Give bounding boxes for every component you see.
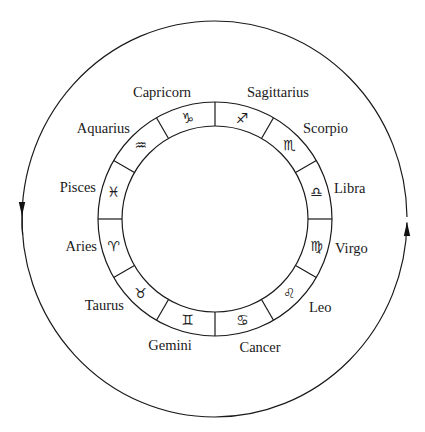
aries-glyph-icon: ♈︎	[107, 238, 120, 254]
sign-label-leo: Leo	[309, 299, 332, 315]
ring-divider	[296, 266, 317, 278]
arrow-up-icon	[404, 222, 410, 236]
leo-glyph-icon: ♌︎	[283, 285, 296, 301]
sign-label-gemini: Gemini	[148, 337, 192, 353]
ring-divider	[262, 118, 274, 139]
ring-outer-circle	[98, 102, 332, 336]
taurus-glyph-icon: ♉︎	[134, 285, 147, 301]
aquarius-glyph-icon: ♒︎	[134, 137, 147, 153]
sign-label-capricorn: Capricorn	[133, 84, 192, 100]
zodiac-ring: ♐︎♏︎♎︎♍︎♌︎♋︎♊︎♉︎♈︎♓︎♒︎♑︎	[98, 102, 332, 336]
arrow-down-icon	[19, 202, 25, 216]
ring-divider	[157, 118, 169, 139]
ring-dividers	[98, 102, 332, 336]
gemini-glyph-icon: ♊︎	[182, 312, 195, 328]
pisces-glyph-icon: ♓︎	[107, 184, 120, 200]
ring-inner-circle	[122, 126, 308, 312]
sign-label-libra: Libra	[334, 180, 366, 196]
ring-divider	[296, 161, 317, 173]
sign-label-aquarius: Aquarius	[77, 120, 131, 136]
ring-divider	[114, 161, 135, 173]
virgo-glyph-icon: ♍︎	[310, 238, 323, 254]
zodiac-diagram: ♐︎♏︎♎︎♍︎♌︎♋︎♊︎♉︎♈︎♓︎♒︎♑︎ SagittariusScor…	[0, 0, 425, 432]
scorpio-glyph-icon: ♏︎	[283, 137, 296, 153]
sign-label-cancer: Cancer	[239, 339, 280, 355]
ring-divider	[157, 300, 169, 321]
capricorn-glyph-icon: ♑︎	[182, 110, 195, 126]
ring-divider	[262, 300, 274, 321]
libra-glyph-icon: ♎︎	[310, 184, 323, 200]
sign-label-scorpio: Scorpio	[303, 120, 348, 136]
cancer-glyph-icon: ♋︎	[236, 312, 249, 328]
sign-label-sagittarius: Sagittarius	[247, 84, 309, 100]
sign-label-taurus: Taurus	[85, 297, 125, 313]
sagittarius-glyph-icon: ♐︎	[236, 110, 249, 126]
outer-orbit	[19, 21, 410, 417]
sign-label-pisces: Pisces	[60, 179, 97, 195]
sign-label-aries: Aries	[66, 238, 98, 254]
ring-divider	[114, 266, 135, 278]
sign-label-virgo: Virgo	[335, 240, 368, 256]
zodiac-glyphs: ♐︎♏︎♎︎♍︎♌︎♋︎♊︎♉︎♈︎♓︎♒︎♑︎	[107, 110, 322, 329]
